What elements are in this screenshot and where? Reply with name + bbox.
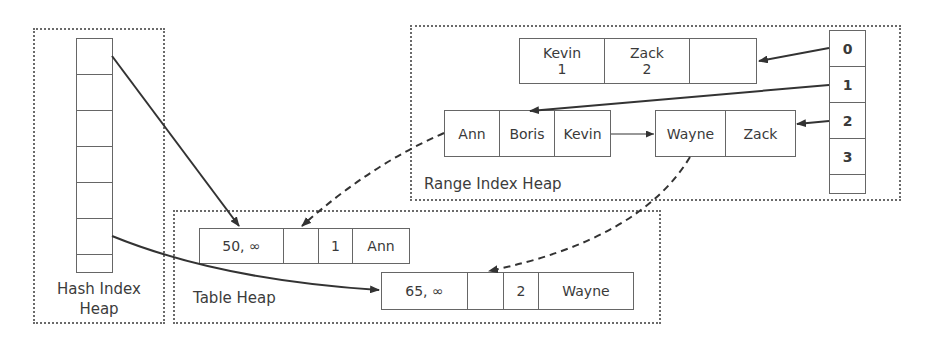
arrow-ann-key-to-row <box>302 133 444 226</box>
arrow-hash-to-wayne <box>112 236 379 290</box>
arrow-map2-to-leaf2 <box>797 121 829 124</box>
arrow-map1-to-leaf1 <box>530 85 829 111</box>
arrow-wayne-key-to-row <box>489 157 690 271</box>
arrow-map0-to-root <box>759 48 829 61</box>
arrow-hash-to-ann <box>112 56 239 226</box>
arrows-overlay <box>0 0 930 341</box>
